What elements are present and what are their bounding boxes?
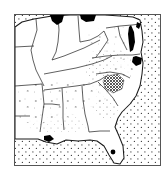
- map-canvas: [0, 0, 167, 175]
- lake-okeechobee-shape: [111, 150, 116, 155]
- distribution-map-figure: [0, 0, 167, 175]
